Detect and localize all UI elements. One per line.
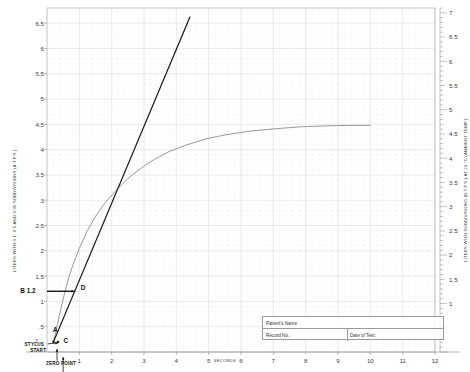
patient-info-form[interactable]: Patient's Name Record No.: Date of Test:: [262, 316, 444, 340]
x-tick-10: 10: [362, 357, 378, 364]
right-tick-3p5: 3.5: [449, 179, 465, 186]
x-tick-3: 3: [136, 357, 152, 364]
y-axis-left-title: LITERS WITH 0.1, 0.5 AND 0.05 SUBDIVISIO…: [12, 149, 17, 272]
right-tick-1p5: 1.5: [449, 276, 465, 283]
patient-name-label[interactable]: Patient's Name: [263, 317, 445, 329]
annotation-a: A: [53, 326, 58, 333]
x-tick-9: 9: [330, 357, 346, 364]
annotation-c: C: [64, 337, 69, 344]
left-tick-5: 5: [22, 95, 44, 102]
left-tick-4: 4: [22, 146, 44, 153]
left-tick-5p5: 5.5: [22, 70, 44, 77]
left-tick-2: 2: [22, 247, 44, 254]
record-no-label[interactable]: Record No.:: [263, 329, 347, 341]
right-tick-4p5: 4.5: [449, 130, 465, 137]
right-tick-4: 4: [449, 155, 465, 162]
x-tick-7: 7: [265, 357, 281, 364]
x-tick-4: 4: [168, 357, 184, 364]
y-axis-right-title: LITERS WITH SUBDIVISIONS (B.T.P.S.) AT 2…: [463, 118, 468, 262]
x-tick-11: 11: [395, 357, 411, 364]
x-tick-5: 5: [201, 357, 217, 364]
right-tick-2p5: 2.5: [449, 227, 465, 234]
right-tick-6p5: 6.5: [449, 33, 465, 40]
left-tick-6p5: 6.5: [22, 20, 44, 27]
right-tick-6: 6: [449, 58, 465, 65]
x-tick-8: 8: [298, 357, 314, 364]
x-axis-ticks: [79, 352, 435, 355]
form-row-record-date: Record No.: Date of Test:: [263, 329, 443, 341]
annotation-b-1-2: B 1.2: [20, 287, 35, 294]
right-tick-7: 7: [449, 9, 465, 16]
right-tick-2: 2: [449, 251, 465, 258]
left-axis-ticks: [44, 23, 47, 327]
x-tick-6: 6: [233, 357, 249, 364]
left-tick-1p5: 1.5: [22, 273, 44, 280]
left-tick-3p5: 3.5: [22, 171, 44, 178]
annotation-start: START: [30, 348, 46, 353]
left-tick-3: 3: [22, 197, 44, 204]
x-tick-12: 12: [427, 357, 443, 364]
date-of-test-label[interactable]: Date of Test:: [347, 329, 445, 341]
left-tick-2p5: 2.5: [22, 222, 44, 229]
annotation-stylus: STYLUS: [25, 342, 44, 347]
annotation-d: D: [81, 284, 86, 291]
annotation-zero-point: ZERO POINT: [46, 361, 76, 366]
x-tick-2: 2: [104, 357, 120, 364]
left-tick-1: 1: [22, 298, 44, 305]
right-axis-ticks: [440, 8, 447, 352]
left-tick-p5: .5: [22, 323, 44, 330]
right-tick-1: 1: [449, 300, 465, 307]
form-row-patient-name: Patient's Name: [263, 317, 443, 329]
left-tick-4p5: 4.5: [22, 121, 44, 128]
left-tick-6: 6: [22, 45, 44, 52]
right-tick-5p5: 5.5: [449, 82, 465, 89]
spirometry-chart: LITERS WITH 0.1, 0.5 AND 0.05 SUBDIVISIO…: [0, 0, 470, 372]
right-tick-5: 5: [449, 106, 465, 113]
right-tick-3: 3: [449, 203, 465, 210]
